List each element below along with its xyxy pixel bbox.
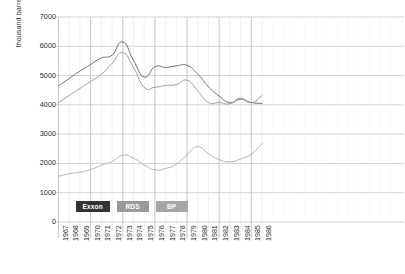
x-axis-tick-label: 1967 [62, 225, 70, 241]
x-axis-tick-label: 1984 [244, 225, 252, 241]
x-axis-tick-label: 1978 [179, 225, 187, 241]
x-axis-tick-label: 1983 [233, 225, 241, 241]
legend-item-exxon[interactable]: Exxon [76, 201, 110, 212]
x-axis-tick-labels: 1967196819691970197119721973197419751976… [0, 0, 405, 274]
x-axis-tick-label: 1982 [222, 225, 230, 241]
x-axis-tick-label: 1972 [115, 225, 123, 241]
x-axis-tick-label: 1981 [211, 225, 219, 241]
chart-legend: ExxonRDSBP [76, 201, 188, 212]
x-axis-tick-label: 1986 [265, 225, 273, 241]
x-axis-tick-label: 1977 [169, 225, 177, 241]
legend-item-bp[interactable]: BP [156, 201, 188, 212]
line-chart: thousand barrels per day 010002000300040… [0, 0, 405, 274]
x-axis-tick-label: 1973 [126, 225, 134, 241]
x-axis-tick-label: 1985 [254, 225, 262, 241]
x-axis-tick-label: 1970 [94, 225, 102, 241]
x-axis-tick-label: 1979 [190, 225, 198, 241]
x-axis-tick-label: 1969 [83, 225, 91, 241]
x-axis-tick-label: 1976 [158, 225, 166, 241]
x-axis-tick-label: 1968 [72, 225, 80, 241]
x-axis-tick-label: 1971 [104, 225, 112, 241]
legend-item-rds[interactable]: RDS [117, 201, 149, 212]
x-axis-tick-label: 1974 [136, 225, 144, 241]
x-axis-tick-label: 1975 [147, 225, 155, 241]
x-axis-tick-label: 1980 [201, 225, 209, 241]
